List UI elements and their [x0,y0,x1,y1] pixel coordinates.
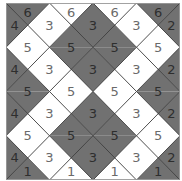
clue-number: 5 [24,128,32,143]
clue-number: 3 [89,150,97,165]
clue-number: 5 [24,84,32,99]
clue-number: 2 [167,106,175,121]
clue-number: 3 [132,150,140,165]
clue-number: 2 [167,18,175,33]
clue-number: 5 [24,40,32,55]
clue-number: 3 [45,62,53,77]
clue-number: 1 [24,164,32,179]
clue-number: 3 [45,150,53,165]
clue-number: 3 [132,106,140,121]
clue-number: 3 [132,62,140,77]
clue-number: 3 [89,106,97,121]
clue-number: 6 [111,5,119,20]
clue-number: 2 [167,62,175,77]
clue-number: 3 [45,18,53,33]
clue-number: 4 [11,18,19,33]
clue-number: 5 [154,40,162,55]
clue-number: 6 [24,5,32,20]
puzzle-grid[interactable]: 6666555555555555111143332433324333243332 [6,3,180,180]
clue-number: 5 [67,84,75,99]
clue-number: 3 [45,106,53,121]
clue-number: 1 [67,164,75,179]
clue-number: 4 [11,106,19,121]
clue-number: 3 [89,62,97,77]
clue-number: 1 [111,164,119,179]
clue-number: 4 [11,150,19,165]
puzzle-board[interactable]: 6666555555555555111143332433324333243332 [6,3,180,180]
clue-number: 5 [111,128,119,143]
clue-number: 4 [11,62,19,77]
clue-number: 2 [167,150,175,165]
clue-number: 3 [132,18,140,33]
clue-number: 5 [111,84,119,99]
clue-number: 5 [154,128,162,143]
clue-number: 6 [67,5,75,20]
clue-number: 5 [67,128,75,143]
clue-number: 5 [111,40,119,55]
clue-number: 6 [154,5,162,20]
clue-number: 5 [67,40,75,55]
clue-number: 1 [154,164,162,179]
clue-number: 5 [154,84,162,99]
clue-number: 3 [89,18,97,33]
